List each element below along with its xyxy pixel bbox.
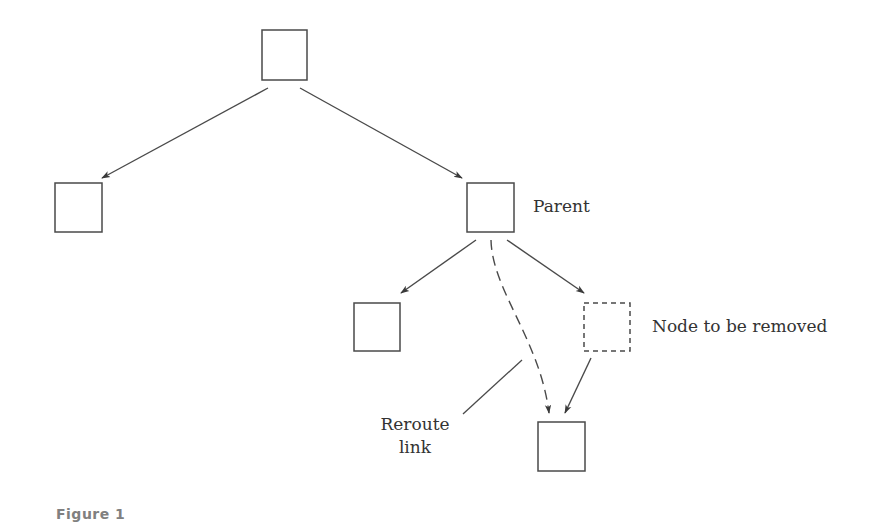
edge-root-to-parent — [300, 88, 462, 178]
edge-parent-to-node-to-remove — [507, 240, 584, 293]
reroute-link-label-line2: link — [378, 437, 452, 457]
node-to-remove — [584, 303, 630, 351]
left-grandchild-node — [354, 303, 400, 351]
parent-label: Parent — [533, 196, 590, 216]
reroute-label-leader-line — [463, 360, 522, 414]
root-node — [262, 30, 307, 80]
node-to-remove-label: Node to be removed — [652, 316, 827, 336]
parent-node — [467, 183, 514, 232]
reroute-link-label-line1: Reroute — [378, 414, 452, 434]
edge-removed-to-grandchild — [565, 358, 591, 413]
left-child-node — [55, 183, 102, 232]
grandchild-of-removed-node — [538, 422, 585, 471]
edge-parent-to-left-grandchild — [401, 240, 476, 293]
reroute-link-dashed-edge — [491, 240, 549, 413]
figure-caption: Figure 1 — [56, 506, 125, 522]
edge-root-to-left-child — [102, 88, 268, 178]
